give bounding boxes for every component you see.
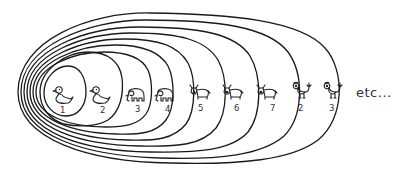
curve-6 <box>27 33 225 146</box>
bull-icon <box>223 85 243 99</box>
item-label: 2 <box>298 103 303 113</box>
item-label: 3 <box>329 103 334 113</box>
item-label: 6 <box>234 103 239 113</box>
elephant-icon <box>126 89 144 101</box>
item-label: 1 <box>60 105 65 115</box>
curve-9 <box>18 13 339 163</box>
continuation-text: etc... <box>356 85 392 100</box>
item-4: 4 <box>155 89 173 114</box>
item-1: 1 <box>53 87 73 115</box>
curve-3 <box>36 52 152 127</box>
elephant-icon <box>155 89 173 101</box>
bull-icon <box>257 85 277 99</box>
item-label: 7 <box>270 103 275 113</box>
item-7: 7 <box>257 85 277 113</box>
item-8: 2 <box>293 82 311 113</box>
item-6: 6 <box>223 85 243 113</box>
item-label: 3 <box>135 104 140 114</box>
nested-curves <box>18 13 339 163</box>
duck-icon <box>90 87 110 104</box>
nested-counting-diagram: 1 2 3 4 5 6 7 2 <box>0 0 402 172</box>
item-3: 3 <box>126 89 144 114</box>
item-label: 2 <box>100 105 105 115</box>
rooster-icon <box>293 82 311 98</box>
item-2: 2 <box>90 87 110 115</box>
item-label: 5 <box>198 103 203 113</box>
duck-icon <box>53 87 73 104</box>
item-label: 4 <box>165 104 170 114</box>
curve-2 <box>40 52 122 126</box>
